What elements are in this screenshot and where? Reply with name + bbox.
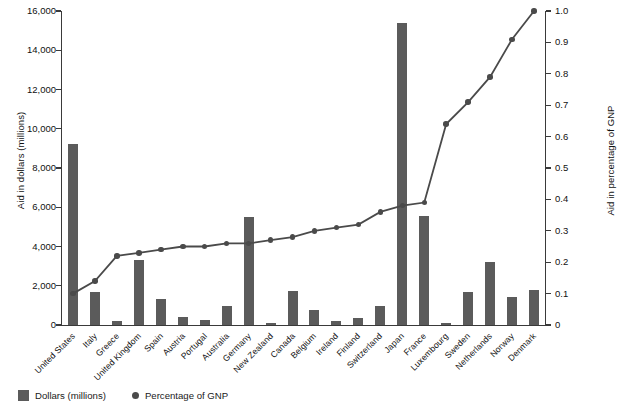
x-axis-line bbox=[61, 325, 546, 326]
y-tick-left bbox=[56, 50, 61, 51]
y-tick-label-right: 0.8 bbox=[555, 68, 595, 79]
dot-united-states bbox=[70, 291, 76, 297]
legend-square-icon bbox=[18, 390, 29, 401]
y-tick-label-left: 14,000 bbox=[10, 44, 56, 55]
y-tick-label-left: 4,000 bbox=[10, 241, 56, 252]
dot-luxembourg bbox=[443, 121, 449, 127]
legend-item-dollars: Dollars (millions) bbox=[18, 390, 106, 401]
y-tick-right bbox=[546, 73, 551, 74]
y-tick-left bbox=[56, 246, 61, 247]
legend-dot-icon bbox=[132, 392, 139, 399]
dot-united-kingdom bbox=[136, 250, 142, 256]
y-tick-right bbox=[546, 42, 551, 43]
y-tick-right bbox=[546, 324, 551, 325]
y-tick-right bbox=[546, 10, 551, 11]
y-tick-label-left: 8,000 bbox=[10, 162, 56, 173]
line-marker-layer bbox=[62, 11, 545, 325]
y-tick-label-left: 12,000 bbox=[10, 84, 56, 95]
y-tick-left bbox=[56, 324, 61, 325]
y-tick-label-right: 0.3 bbox=[555, 225, 595, 236]
y-tick-label-right: 0.4 bbox=[555, 193, 595, 204]
dot-canada bbox=[290, 234, 296, 240]
dot-spain bbox=[158, 247, 164, 253]
y-tick-left bbox=[56, 285, 61, 286]
y-tick-left bbox=[56, 128, 61, 129]
dot-japan bbox=[400, 203, 406, 209]
chart-legend: Dollars (millions) Percentage of GNP bbox=[18, 390, 228, 401]
y-tick-label-right: 1.0 bbox=[555, 5, 595, 16]
dot-germany bbox=[246, 241, 252, 247]
dot-denmark bbox=[531, 8, 537, 14]
y-tick-label-left: 16,000 bbox=[10, 5, 56, 16]
y-tick-right bbox=[546, 136, 551, 137]
dot-italy bbox=[92, 278, 98, 284]
dot-switzerland bbox=[378, 209, 384, 215]
y-tick-label-right: 0.1 bbox=[555, 288, 595, 299]
y-tick-label-right: 0.9 bbox=[555, 36, 595, 47]
y-tick-label-right: 0.6 bbox=[555, 131, 595, 142]
y-tick-label-left: 6,000 bbox=[10, 201, 56, 212]
y-tick-right bbox=[546, 167, 551, 168]
dot-greece bbox=[114, 253, 120, 259]
y-tick-right bbox=[546, 262, 551, 263]
legend-label-gnp: Percentage of GNP bbox=[145, 390, 228, 401]
dot-finland bbox=[356, 222, 362, 228]
legend-item-gnp: Percentage of GNP bbox=[132, 390, 228, 401]
y-tick-left bbox=[56, 89, 61, 90]
dot-austria bbox=[180, 244, 186, 250]
y-tick-right bbox=[546, 293, 551, 294]
y-tick-label-left: 0 bbox=[10, 319, 56, 330]
dot-norway bbox=[509, 37, 515, 43]
dot-sweden bbox=[465, 99, 471, 105]
y-tick-label-right: 0.7 bbox=[555, 99, 595, 110]
y-axis-right-ticks: 00.10.20.30.40.50.60.70.80.91.0 bbox=[552, 0, 618, 415]
y-tick-label-right: 0 bbox=[555, 319, 595, 330]
y-tick-left bbox=[56, 207, 61, 208]
y-tick-left bbox=[56, 10, 61, 11]
dot-australia bbox=[224, 241, 230, 247]
x-label-italy: Italy bbox=[80, 331, 99, 350]
dot-belgium bbox=[312, 228, 318, 234]
y-tick-label-right: 0.5 bbox=[555, 162, 595, 173]
y-tick-label-left: 2,000 bbox=[10, 280, 56, 291]
dot-new-zealand bbox=[268, 237, 274, 243]
y-tick-label-left: 10,000 bbox=[10, 123, 56, 134]
y-tick-right bbox=[546, 105, 551, 106]
dot-netherlands bbox=[487, 74, 493, 80]
y-tick-left bbox=[56, 167, 61, 168]
dot-france bbox=[422, 200, 428, 206]
y-tick-right bbox=[546, 199, 551, 200]
chart-container: Aid in dollars (millions) Aid in percent… bbox=[0, 0, 618, 415]
dot-portugal bbox=[202, 244, 208, 250]
dot-ireland bbox=[334, 225, 340, 231]
legend-label-dollars: Dollars (millions) bbox=[35, 390, 106, 401]
y-tick-label-right: 0.2 bbox=[555, 256, 595, 267]
y-tick-right bbox=[546, 230, 551, 231]
